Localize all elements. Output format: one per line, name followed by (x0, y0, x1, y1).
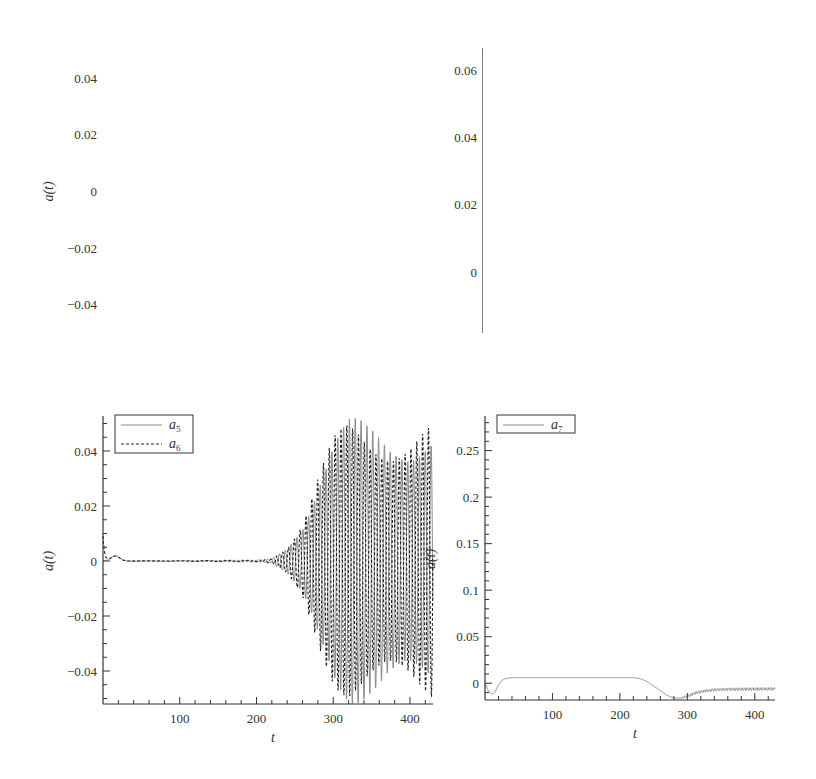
x-tick-label: 300 (323, 711, 343, 726)
x-axis-label: t (271, 730, 276, 745)
y-tick-label: −0.02 (67, 609, 97, 624)
y-tick-label: 0.2 (463, 490, 479, 505)
x-tick-label: 200 (610, 707, 630, 722)
x-tick-label: 300 (678, 707, 698, 722)
y-tick-label: 0 (473, 676, 480, 691)
x-tick-label: 100 (170, 711, 190, 726)
y-tick-label: 0.1 (463, 583, 479, 598)
y-axis-label: a(t) (423, 549, 439, 570)
y-axis-label: a(t) (41, 551, 57, 572)
y-tick-label: 0.04 (454, 130, 477, 145)
x-tick-label: 400 (745, 707, 765, 722)
x-tick-label: 100 (543, 707, 563, 722)
y-tick-label: 0.02 (74, 127, 97, 142)
y-tick-label: 0 (471, 265, 478, 280)
y-tick-label: 0.04 (74, 444, 97, 459)
legend-label-subscript: 7 (558, 424, 563, 434)
legend-box (115, 415, 193, 453)
y-tick-label: −0.04 (67, 664, 98, 679)
y-axis-label: a(t) (41, 181, 57, 202)
x-tick-label: 200 (247, 711, 267, 726)
y-tick-label: 0.04 (74, 71, 97, 86)
series-a7-line (485, 678, 775, 699)
y-tick-label: 0.02 (454, 197, 477, 212)
mask-top (483, 0, 779, 417)
x-axis-label: t (633, 726, 638, 741)
mask-top (101, 0, 437, 417)
y-tick-label: −0.02 (67, 241, 97, 256)
legend: a5a6 (115, 415, 193, 453)
panel-bottom-right: 100200300400t00.050.10.150.20.25a(t)a7 (423, 0, 779, 741)
y-tick-label: 0.05 (456, 629, 479, 644)
y-tick-label: 0.06 (454, 63, 477, 78)
y-tick-label: 0.02 (74, 499, 97, 514)
legend-label-subscript: 5 (176, 424, 181, 434)
x-tick-label: 400 (400, 711, 420, 726)
y-tick-label: 0 (91, 184, 98, 199)
legend-box (497, 415, 575, 433)
y-tick-label: 0 (91, 554, 98, 569)
y-tick-label: 0.15 (456, 536, 479, 551)
figure-canvas: 100200300400t−0.04−0.0200.020.04a(t)a1a2… (0, 0, 816, 779)
legend: a7 (497, 415, 575, 434)
panel-bottom-left: 100200300400t−0.04−0.0200.020.04a(t)a5a6 (41, 0, 437, 745)
legend-label-subscript: 6 (176, 443, 181, 453)
y-tick-label: 0.25 (456, 443, 479, 458)
y-tick-label: −0.04 (67, 297, 98, 312)
